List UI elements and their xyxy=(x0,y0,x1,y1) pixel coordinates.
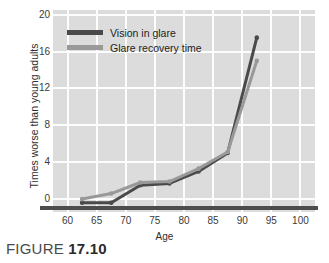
x-axis-tick-label: 95 xyxy=(256,214,286,228)
data-point-marker xyxy=(254,58,259,63)
data-point-marker xyxy=(254,35,259,40)
data-point-marker xyxy=(196,166,201,171)
figure-container: 048121620 6065707580859095100 Times wors… xyxy=(0,0,329,263)
figure-caption: FIGURE 17.10 xyxy=(6,240,107,257)
data-point-marker xyxy=(80,197,85,202)
data-point-marker xyxy=(109,191,114,196)
legend: Vision in glare Glare recovery time xyxy=(67,26,217,56)
x-axis-tick-label: 70 xyxy=(111,214,141,228)
x-axis-tick-labels: 6065707580859095100 xyxy=(0,214,329,230)
data-point-marker xyxy=(138,180,143,185)
caption-number: 17.10 xyxy=(68,240,107,257)
data-point-marker xyxy=(109,200,114,205)
legend-label: Vision in glare xyxy=(110,27,176,39)
legend-item-glare-recovery-time: Glare recovery time xyxy=(67,41,217,54)
legend-item-vision-in-glare: Vision in glare xyxy=(67,26,217,39)
x-axis-tick-label: 85 xyxy=(198,214,228,228)
legend-label: Glare recovery time xyxy=(110,42,202,54)
data-point-marker xyxy=(167,179,172,184)
x-axis-tick-label: 100 xyxy=(285,214,315,228)
y-axis-title: Times worse than young adults xyxy=(28,26,40,206)
axis-baseline-rule xyxy=(40,206,318,210)
data-point-marker xyxy=(225,150,230,155)
x-axis-tick-label: 90 xyxy=(227,214,257,228)
y-axis-title-holder: Times worse than young adults xyxy=(14,10,34,210)
series-line xyxy=(82,38,257,203)
legend-swatch-icon xyxy=(67,45,103,50)
series-line xyxy=(82,61,257,199)
x-axis-tick-label: 65 xyxy=(82,214,112,228)
legend-swatch-icon xyxy=(67,30,103,35)
x-axis-tick-label: 75 xyxy=(140,214,170,228)
x-axis-tick-label: 80 xyxy=(169,214,199,228)
caption-word: FIGURE xyxy=(6,240,64,257)
x-axis-tick-label: 60 xyxy=(53,214,83,228)
